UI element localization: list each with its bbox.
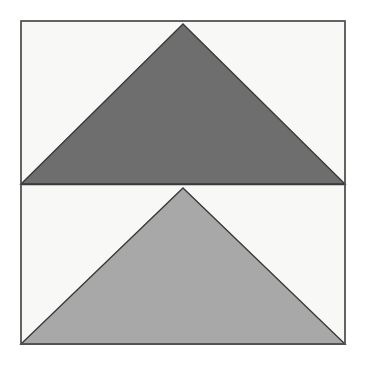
figure-canvas <box>0 0 366 366</box>
two-triangles-figure <box>0 0 366 366</box>
